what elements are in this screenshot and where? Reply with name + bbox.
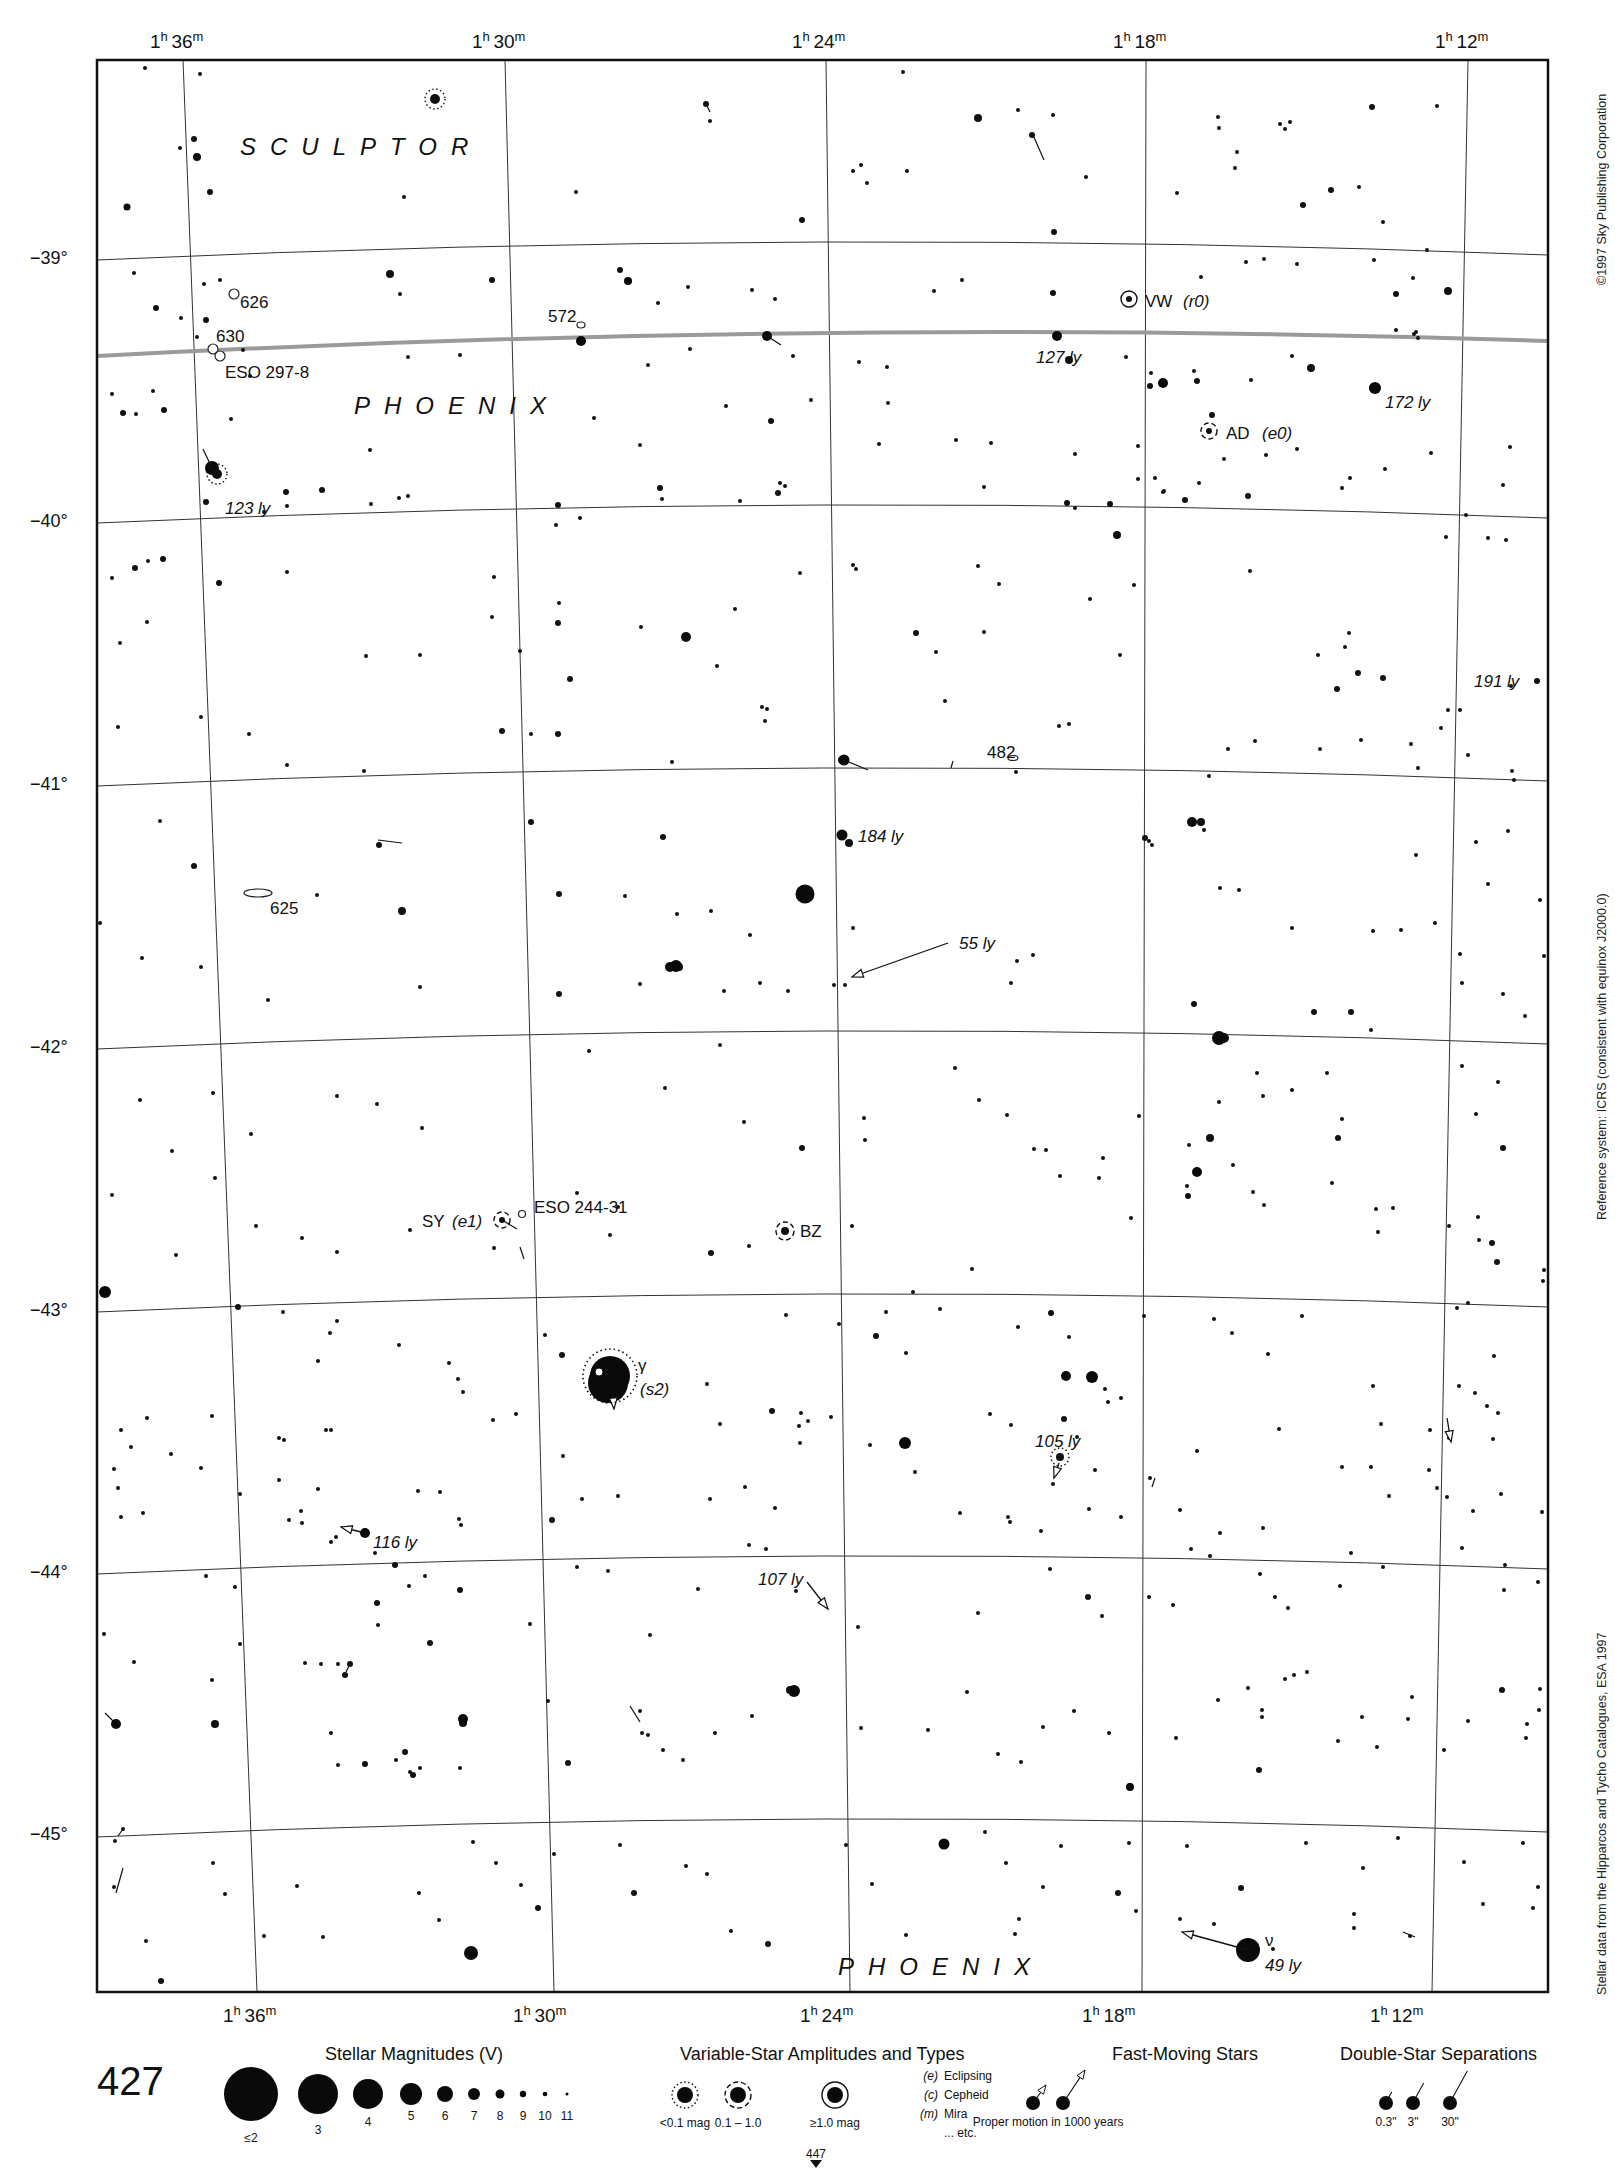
star xyxy=(1348,476,1352,480)
star xyxy=(837,1322,841,1326)
star xyxy=(1107,501,1113,507)
star xyxy=(623,894,627,898)
object-label: (s2) xyxy=(640,1380,669,1399)
star xyxy=(760,705,764,709)
star xyxy=(1311,1009,1317,1015)
star xyxy=(408,1770,412,1774)
star xyxy=(266,998,270,1002)
ra-label: 1h 36m xyxy=(150,29,203,52)
star xyxy=(733,607,737,611)
star xyxy=(1485,1404,1489,1408)
galaxy-icon xyxy=(577,322,585,328)
deep-sky-objects xyxy=(207,89,1217,1466)
star xyxy=(394,1758,398,1762)
star xyxy=(1295,447,1299,451)
double-star-tick xyxy=(1033,135,1044,160)
star xyxy=(376,1623,380,1627)
star xyxy=(546,1699,550,1703)
star xyxy=(282,1438,286,1442)
star xyxy=(616,1494,620,1498)
star xyxy=(1531,1906,1535,1910)
ra-label: 1h 24m xyxy=(800,2003,853,2026)
magnitude-sample xyxy=(543,2092,548,2097)
down-arrow-icon[interactable] xyxy=(810,2160,822,2168)
star xyxy=(1199,275,1203,279)
object-label: (e0) xyxy=(1262,424,1292,443)
star xyxy=(1360,1715,1364,1719)
double-separation-label: 3" xyxy=(1408,2115,1419,2129)
star xyxy=(926,1728,930,1732)
star xyxy=(686,285,690,289)
star xyxy=(1425,248,1429,252)
star xyxy=(884,1310,888,1314)
boundary-line xyxy=(97,332,1548,356)
dec-label: −44° xyxy=(30,1562,68,1582)
star xyxy=(210,1414,214,1418)
star xyxy=(1410,1695,1414,1699)
object-label: 482 xyxy=(987,743,1015,762)
star xyxy=(238,1642,242,1646)
variable-star xyxy=(430,94,440,104)
star xyxy=(1197,818,1205,826)
star xyxy=(1391,1206,1395,1210)
star xyxy=(1153,476,1157,480)
star xyxy=(1216,115,1220,119)
star xyxy=(1044,1148,1048,1152)
star xyxy=(1458,952,1462,956)
star xyxy=(285,570,289,574)
star xyxy=(863,1138,867,1142)
star xyxy=(1017,1917,1021,1921)
star xyxy=(241,348,245,352)
star xyxy=(262,1934,266,1938)
star xyxy=(958,1511,962,1515)
star xyxy=(118,641,122,645)
star xyxy=(218,278,222,282)
star xyxy=(552,1852,556,1856)
star xyxy=(283,489,289,495)
star xyxy=(407,1584,411,1588)
star xyxy=(398,907,406,915)
star xyxy=(794,1589,798,1593)
star xyxy=(1041,1725,1045,1729)
star xyxy=(631,1890,637,1896)
object-label: 49 ly xyxy=(1265,1956,1302,1975)
bright-star xyxy=(796,885,815,904)
constellation-boundary xyxy=(97,332,1548,356)
magnitude-label: 7 xyxy=(471,2109,478,2123)
star xyxy=(1129,1216,1133,1220)
star xyxy=(696,1587,700,1591)
star xyxy=(110,392,114,396)
star xyxy=(1381,220,1385,224)
star xyxy=(638,982,642,986)
star xyxy=(646,363,650,367)
star xyxy=(461,1390,465,1394)
magnitude-sample xyxy=(468,2088,480,2100)
star xyxy=(1316,653,1320,657)
bright-star xyxy=(837,830,848,841)
star xyxy=(161,407,167,413)
star xyxy=(499,728,505,734)
star xyxy=(1435,104,1439,108)
star xyxy=(457,1587,463,1593)
star xyxy=(1260,1715,1264,1719)
star xyxy=(1361,1866,1365,1870)
galaxy-icon xyxy=(229,289,239,299)
star xyxy=(1084,175,1088,179)
star xyxy=(1057,724,1061,728)
star xyxy=(336,1662,340,1666)
bright-star xyxy=(1126,1783,1134,1791)
star xyxy=(328,1331,332,1335)
star xyxy=(1466,1719,1470,1723)
star xyxy=(1182,497,1188,503)
star xyxy=(132,565,138,571)
star xyxy=(797,1424,801,1428)
star xyxy=(845,839,853,847)
star xyxy=(203,317,209,323)
double-star-tick xyxy=(951,761,953,768)
star xyxy=(362,1761,368,1767)
star xyxy=(1446,708,1450,712)
next-page-ref[interactable]: 447 xyxy=(806,2147,826,2161)
star xyxy=(285,504,289,508)
star xyxy=(1283,127,1287,131)
star xyxy=(199,965,203,969)
